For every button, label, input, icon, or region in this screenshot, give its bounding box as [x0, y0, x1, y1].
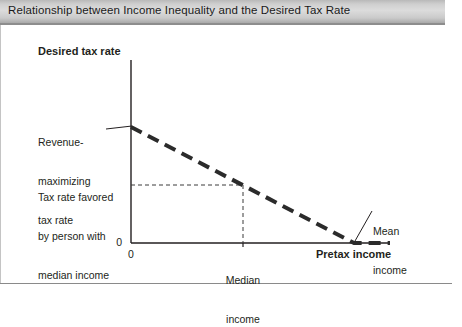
annotation-line-2: income	[373, 264, 407, 277]
annotation-line-1: Mean	[373, 225, 407, 238]
leader-line-revenue-maximizing	[106, 126, 132, 129]
tick-label-line-1: Median	[213, 274, 273, 287]
x-axis-tick-label-zero: 0	[124, 248, 138, 261]
x-axis-title: Pretax income	[316, 248, 391, 261]
y-axis-tick-label-zero: 0	[108, 236, 122, 249]
annotation-line-2: by person with	[38, 230, 113, 243]
tick-label-line-2: income	[213, 313, 273, 326]
x-axis-tick-label-median-income: Median income	[213, 248, 273, 327]
annotation-median-voter-tax-rate: Tax rate favored by person with median i…	[38, 165, 113, 308]
annotation-line-1: Revenue-	[38, 136, 91, 149]
y-axis-title: Desired tax rate	[38, 45, 121, 58]
annotation-line-1: Tax rate favored	[38, 191, 113, 204]
leader-line-mean-income	[355, 211, 372, 241]
annotation-line-3: median income	[38, 269, 113, 282]
